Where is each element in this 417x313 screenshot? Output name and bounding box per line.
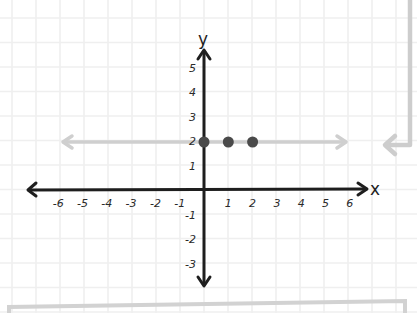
y-tick-label: 3: [189, 111, 196, 124]
y-tick-label: 5: [189, 62, 196, 75]
y-tick-label: 4: [189, 86, 196, 99]
x-axis-label: x: [370, 179, 380, 199]
axes: [28, 50, 367, 286]
x-tick-label: 6: [346, 197, 353, 210]
y-tick-label: 2: [189, 135, 196, 148]
x-tick-label: 3: [273, 197, 280, 210]
guide-bracket-arrow-icon: [385, 0, 410, 154]
point-marker: [223, 137, 234, 148]
x-tick-label: -2: [150, 197, 161, 210]
grid-lines: [0, 0, 417, 313]
y-axis-label: y: [198, 29, 208, 49]
x-tick-label: 5: [322, 197, 329, 210]
x-tick-label: 4: [298, 197, 305, 210]
plotted-points: [199, 137, 259, 148]
x-tick-label: -6: [53, 197, 64, 210]
y-tick-label: -2: [185, 233, 196, 246]
x-tick-label: -1: [174, 197, 185, 210]
y-tick-label: -1: [185, 209, 196, 222]
point-marker: [247, 137, 258, 148]
point-marker: [199, 137, 210, 148]
x-tick-label: -5: [77, 197, 88, 210]
coordinate-plane: x y -6-5-4-3-2-1123456 12345-1-2-3: [0, 0, 417, 313]
x-tick-label: 1: [225, 197, 232, 210]
y-axis-tick-labels: 12345-1-2-3: [185, 62, 196, 271]
x-tick-label: 2: [249, 197, 256, 210]
y-tick-label: -3: [185, 258, 196, 271]
y-tick-label: 1: [189, 160, 196, 173]
x-tick-label: -3: [126, 197, 137, 210]
x-tick-label: -4: [101, 197, 112, 210]
